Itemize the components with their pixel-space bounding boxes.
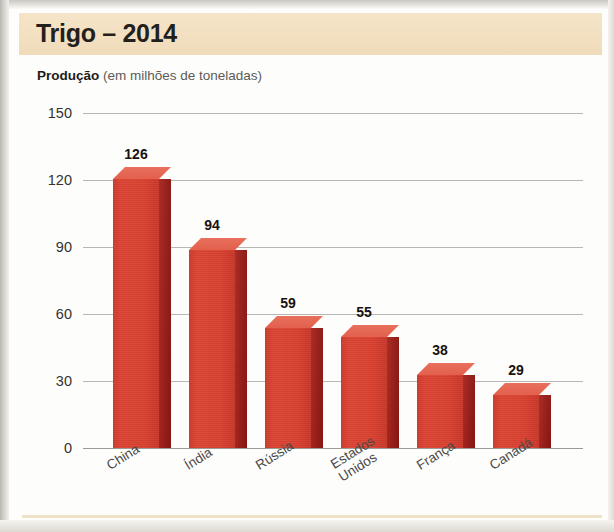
bar-side-face <box>539 395 551 448</box>
bar-russia[interactable] <box>265 316 311 448</box>
bar-front-face <box>341 337 387 448</box>
bar-india[interactable] <box>189 238 235 448</box>
bar-estados-unidos[interactable] <box>341 325 387 448</box>
bar-top-face <box>417 363 475 375</box>
bar-top-face <box>189 238 247 250</box>
bar-side-face <box>463 375 475 448</box>
bar-top-face <box>265 316 323 328</box>
bar-value-india: 94 <box>189 217 235 233</box>
bar-front-face <box>113 179 159 448</box>
bar-side-face <box>235 250 247 448</box>
bar-side-face <box>311 328 323 448</box>
bar-value-franca: 38 <box>417 342 463 358</box>
bar-side-face <box>159 179 171 448</box>
bar-canada[interactable] <box>493 383 539 448</box>
ytick-label-150: 150 <box>0 105 72 121</box>
bar-front-face <box>493 395 539 448</box>
bar-china[interactable] <box>113 167 159 448</box>
bar-side-face <box>387 337 399 448</box>
plot-area: 150 120 90 60 30 0 126 94 59 55 <box>0 0 614 532</box>
ytick-label-90: 90 <box>0 239 72 255</box>
bar-front-face <box>189 250 235 448</box>
bar-value-russia: 59 <box>265 295 311 311</box>
bar-franca[interactable] <box>417 363 463 448</box>
bar-value-estados-unidos: 55 <box>341 304 387 320</box>
ytick-label-120: 120 <box>0 172 72 188</box>
ytick-label-0: 0 <box>0 440 72 456</box>
bar-value-canada: 29 <box>493 362 539 378</box>
ytick-label-60: 60 <box>0 306 72 322</box>
bar-front-face <box>265 328 311 448</box>
bar-top-face <box>113 167 171 179</box>
gridline-150 <box>83 113 583 114</box>
bar-value-china: 126 <box>113 146 159 162</box>
chart-page: Trigo – 2014 Produção (em milhões de ton… <box>0 0 614 532</box>
bar-front-face <box>417 375 463 448</box>
ytick-label-30: 30 <box>0 373 72 389</box>
bar-top-face <box>493 383 551 395</box>
bar-top-face <box>341 325 399 337</box>
